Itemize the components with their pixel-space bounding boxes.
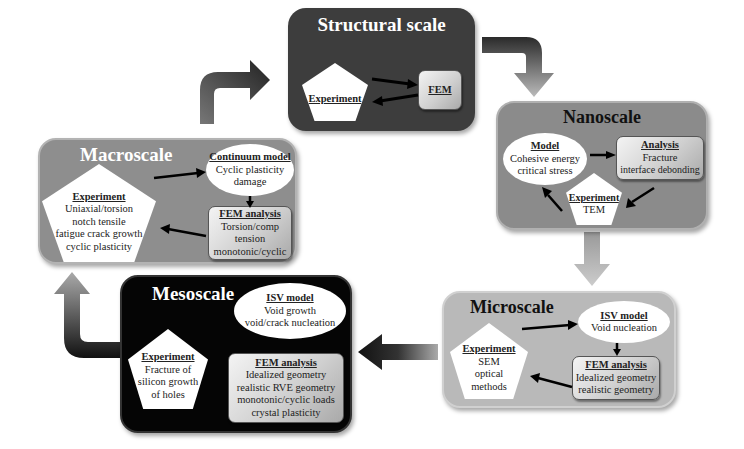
arrow-isv-to-fem [612,343,622,356]
mesoscale-fem-line: monotonic/cyclic loads [229,394,343,407]
nanoscale-experiment-heading: Experiment [566,192,622,205]
macroscale-continuum-model-node: Continuum model Cyclic plasticity damage [206,144,294,196]
nanoscale-model-heading: Model [503,140,587,153]
arrow-nano-to-micro [572,232,612,286]
macroscale-experiment-line: Uniaxial/torsion [42,203,156,216]
structural-scale-title: Structural scale [288,14,475,36]
macroscale-continuum-line: Cyclic plasticity [206,164,294,177]
arrow-model-to-analysis [590,150,616,160]
microscale-fem-line: realistic geometry [573,384,659,397]
macroscale-continuum-heading: Continuum model [206,151,294,164]
arrow-experiment-to-continuum [154,168,206,182]
mesoscale-isv-line: void/crack nucleation [234,317,346,330]
arrow-experiment-to-model [542,187,564,211]
microscale-fem-heading: FEM analysis [573,359,659,372]
arrow-structural-to-nano [482,35,552,100]
microscale-isv-model-node: ISV model Void nucleation [578,301,670,343]
microscale-experiment-line: methods [450,381,528,394]
macroscale-experiment-node: Experiment Uniaxial/torsion notch tensil… [42,164,156,262]
mesoscale-experiment-line: Fracture of [128,364,208,377]
nanoscale-model-line: critical stress [503,165,587,178]
macroscale-experiment-line: cyclic plasticity [42,241,156,254]
microscale-fem-line: Idealized geometry [573,372,659,385]
nanoscale-title: Nanoscale [498,107,706,128]
nanoscale-analysis-heading: Analysis [617,139,703,152]
structural-experiment-node: Experiment [302,63,368,121]
macroscale-experiment-line: fatigue crack growth [42,228,156,241]
microscale-isv-line: Void nucleation [578,322,670,335]
nanoscale-experiment-node: Experiment TEM [566,173,622,225]
nanoscale-experiment-line: TEM [566,204,622,217]
structural-fem-heading: FEM [419,84,461,97]
nanoscale-model-line: Cohesive energy [503,153,587,166]
microscale-isv-heading: ISV model [578,310,670,323]
arrow-fem-to-experiment [372,92,418,106]
microscale-experiment-node: Experiment SEM optical methods [450,323,528,399]
arrow-meso-to-macro [54,272,124,368]
nanoscale-analysis-line: Fracture [617,152,703,165]
mesoscale-fem-line: Idealized geometry [229,369,343,382]
mesoscale-fem-heading: FEM analysis [229,357,343,370]
arrow-experiment-to-fem [372,76,418,90]
mesoscale-isv-heading: ISV model [234,292,346,305]
macroscale-experiment-heading: Experiment [42,191,156,204]
nanoscale-model-node: Model Cohesive energy critical stress [503,133,587,185]
mesoscale-experiment-node: Experiment Fracture of silicon growth of… [128,329,208,409]
macroscale-fem-line: Torsion/comp [209,221,291,234]
mesoscale-isv-model-node: ISV model Void growth void/crack nucleat… [234,283,346,339]
structural-fem-node: FEM [418,70,462,110]
arrow-fem-to-experiment [530,373,572,389]
mesoscale-experiment-line: of holes [128,389,208,402]
microscale-experiment-heading: Experiment [450,343,528,356]
macroscale-fem-heading: FEM analysis [209,208,291,221]
structural-experiment-heading: Experiment [302,93,368,106]
arrow-experiment-to-isv [522,319,578,333]
mesoscale-experiment-line: silicon growth [128,376,208,389]
arrow-micro-to-meso [358,334,438,370]
macroscale-title: Macroscale [80,144,173,166]
microscale-experiment-line: SEM [450,356,528,369]
microscale-experiment-line: optical [450,368,528,381]
macroscale-experiment-line: notch tensile [42,216,156,229]
macroscale-continuum-line: damage [206,176,294,189]
mesoscale-title: Mesoscale [152,283,234,305]
mesoscale-fem-analysis-node: FEM analysis Idealized geometry realisti… [228,353,344,423]
nanoscale-analysis-line: interface debonding [617,164,703,177]
arrow-fem-to-experiment [160,224,206,238]
mesoscale-panel: Mesoscale ISV model Void growth void/cra… [120,275,352,433]
microscale-panel: Microscale Experiment SEM optical method… [442,291,676,408]
arrow-analysis-to-experiment [626,188,654,208]
mesoscale-experiment-heading: Experiment [128,351,208,364]
microscale-fem-analysis-node: FEM analysis Idealized geometry realisti… [572,356,660,400]
arrow-continuum-to-fem [245,196,255,208]
mesoscale-fem-line: realistic RVE geometry [229,382,343,395]
nanoscale-analysis-node: Analysis Fracture interface debonding [616,136,704,180]
macroscale-fem-line: monotonic/cyclic [209,246,291,259]
structural-scale-panel: Structural scale Experiment FEM [288,8,475,131]
macroscale-fem-line: tension [209,233,291,246]
mesoscale-fem-line: crystal plasticity [229,407,343,420]
arrow-macro-to-structural [196,50,276,130]
macroscale-panel: Macroscale Experiment Uniaxial/torsion n… [38,138,297,264]
macroscale-fem-analysis-node: FEM analysis Torsion/comp tension monoto… [208,206,292,260]
mesoscale-isv-line: Void growth [234,305,346,318]
nanoscale-panel: Nanoscale Model Cohesive energy critical… [496,101,708,230]
microscale-title: Microscale [470,297,554,318]
